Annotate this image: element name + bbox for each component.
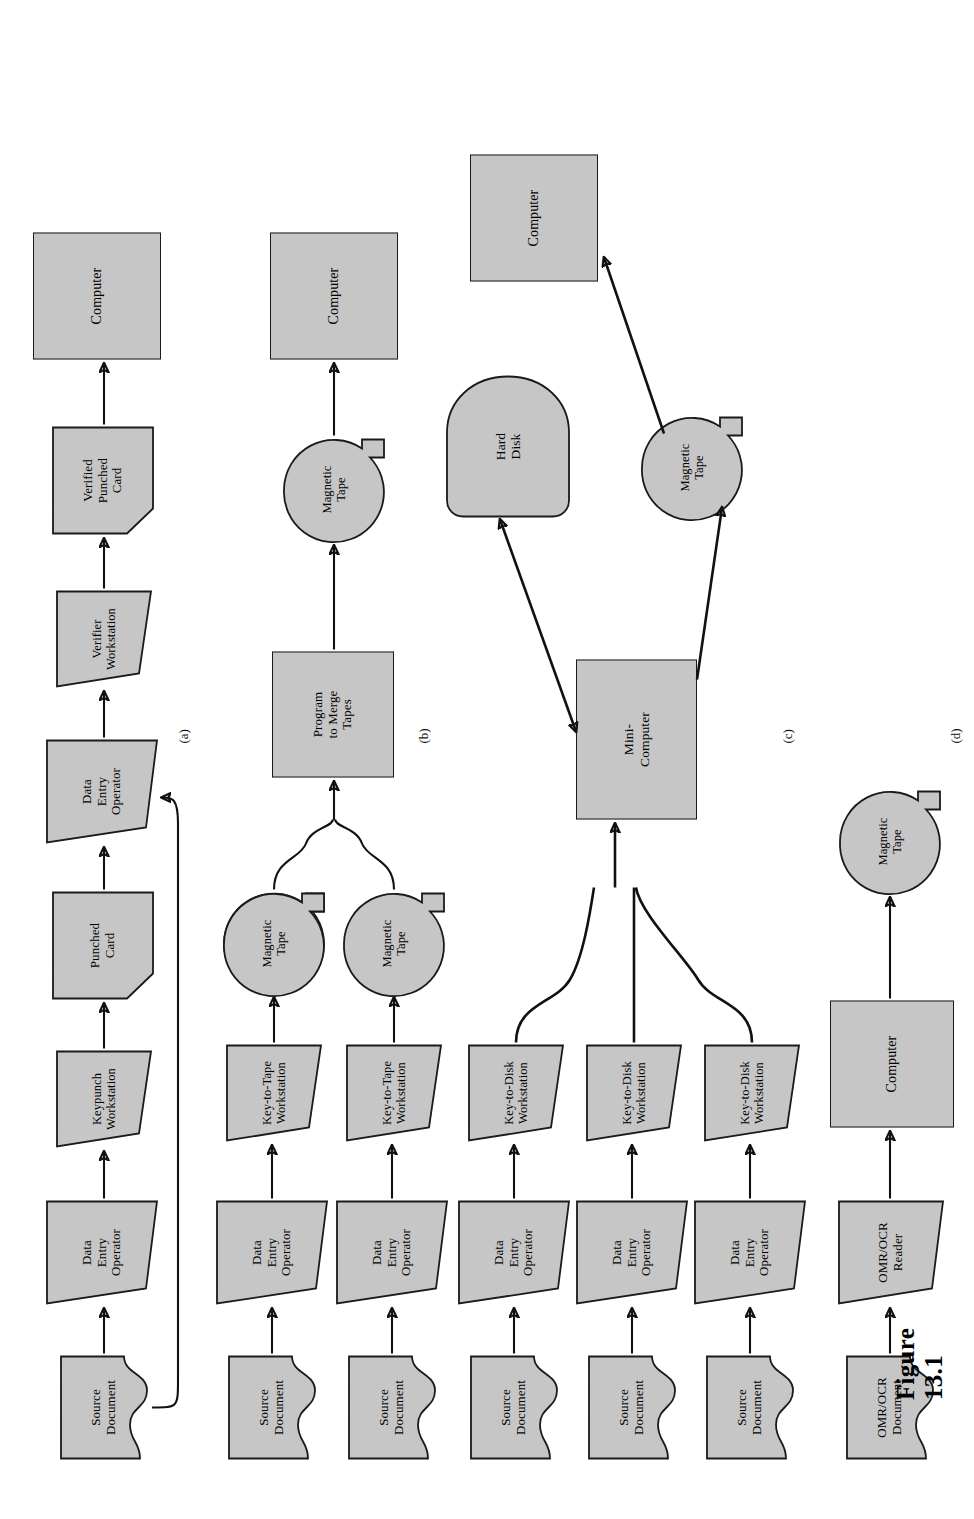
bidirectional-arrow: [500, 519, 576, 731]
connector-layer: [0, 0, 974, 1519]
merge-connector: [516, 823, 752, 1042]
figure-caption: Figure 13.1: [892, 1318, 948, 1400]
merge-connector: [274, 781, 394, 889]
arrow: [604, 257, 664, 433]
figure-canvas: Source Document Data Entry Operator Keyp…: [0, 0, 974, 1519]
arrow: [697, 507, 722, 679]
feedback-arrow: [152, 797, 178, 1407]
